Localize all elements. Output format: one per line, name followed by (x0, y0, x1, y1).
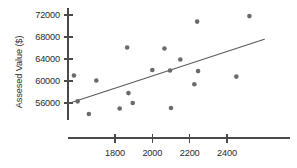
data-point (150, 68, 155, 73)
data-point (247, 14, 252, 19)
y-tick-label: 56000 (35, 98, 60, 108)
data-point (75, 99, 80, 104)
y-tick-label: 64000 (35, 54, 60, 64)
data-point (178, 57, 183, 62)
y-axis-title: Assesed Value ($) (14, 36, 24, 109)
data-point (168, 68, 173, 73)
data-point (72, 73, 77, 78)
x-tick-label: 2400 (217, 148, 237, 158)
scatter-chart: Assesed Value ($) 5600060000640006800072… (0, 0, 297, 168)
data-point (162, 46, 167, 51)
data-point (126, 91, 131, 96)
x-tick-label: 1800 (105, 148, 125, 158)
y-axis-ticks: 5600060000640006800072000 (35, 10, 72, 108)
data-point (125, 45, 130, 50)
data-point (192, 82, 197, 87)
data-point (196, 69, 201, 74)
data-points (72, 14, 252, 116)
data-point (130, 101, 135, 106)
y-tick-label: 72000 (35, 10, 60, 20)
data-point (195, 19, 200, 24)
x-tick-label: 2200 (180, 148, 200, 158)
data-point (169, 106, 174, 111)
data-point (94, 78, 99, 83)
data-point (234, 74, 239, 79)
y-tick-label: 68000 (35, 32, 60, 42)
x-tick-label: 2000 (142, 148, 162, 158)
data-point (87, 112, 92, 117)
y-tick-label: 60000 (35, 76, 60, 86)
plot-area: Assesed Value ($) 5600060000640006800072… (0, 0, 297, 168)
x-axis-ticks: 1800200022002400 (105, 134, 237, 159)
data-point (117, 106, 122, 111)
